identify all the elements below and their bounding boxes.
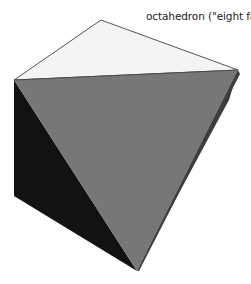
octahedron-figure [0, 0, 251, 284]
figure-label: octahedron ("eight faces") [146, 10, 251, 22]
